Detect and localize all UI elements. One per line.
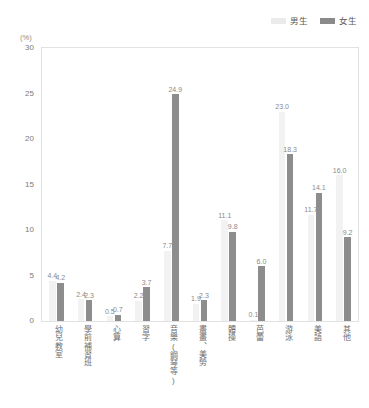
x-axis-label: 畫畫、美勞 <box>195 325 206 367</box>
bar-group: 11.714.1 <box>301 48 330 321</box>
bar-chart: 男生 女生 (%) 051015202530 4.44.22.42.30.50.… <box>0 0 369 408</box>
bar-girls: 0.7 <box>115 315 122 321</box>
x-axis-label: 學前補習班 <box>80 325 91 367</box>
y-axis-tick: 10 <box>25 226 34 234</box>
bar-boys: 0.5 <box>107 316 114 321</box>
x-axis-labels: 幼兒教室學前補習班心算習字音樂(鋼琴等)畫畫、美勞體操芭蕾游泳美語其他 <box>42 325 358 405</box>
legend-label-girls: 女生 <box>339 17 357 26</box>
bar-girls: 24.9 <box>172 94 179 321</box>
x-axis-label: 音樂(鋼琴等) <box>166 325 177 385</box>
legend-label-boys: 男生 <box>290 17 308 26</box>
bar-value-label: 2.2 <box>134 292 144 299</box>
bar-group: 7.724.9 <box>157 48 186 321</box>
y-axis: 051015202530 <box>0 47 39 322</box>
bars-layer: 4.44.22.42.30.50.72.23.77.724.91.92.311.… <box>42 48 358 321</box>
bar-value-label: 7.7 <box>162 242 172 249</box>
bar-value-label: 4.2 <box>55 274 65 281</box>
bar-group: 0.50.7 <box>99 48 128 321</box>
bar-group: 23.018.3 <box>272 48 301 321</box>
bar-girls: 6.0 <box>258 266 265 321</box>
bar-value-label: 18.3 <box>283 146 297 153</box>
y-axis-tick: 30 <box>25 44 34 52</box>
bar-girls: 9.2 <box>344 237 351 321</box>
bar-value-label: 0.7 <box>113 306 123 313</box>
bar-value-label: 23.0 <box>275 103 289 110</box>
y-axis-tick: 25 <box>25 90 34 98</box>
bar-group: 11.19.8 <box>214 48 243 321</box>
bar-boys: 7.7 <box>164 251 171 321</box>
legend-swatch-girls <box>320 18 335 24</box>
bar-boys: 11.1 <box>221 220 228 321</box>
bar-value-label: 0.1 <box>249 311 259 318</box>
x-axis-label: 幼兒教室 <box>51 325 62 358</box>
bar-group: 1.92.3 <box>186 48 215 321</box>
bar-boys: 0.1 <box>250 320 257 321</box>
y-axis-tick: 5 <box>30 272 34 280</box>
bar-value-label: 16.0 <box>333 167 347 174</box>
bar-value-label: 9.2 <box>343 229 353 236</box>
bar-girls: 9.8 <box>229 232 236 321</box>
bar-value-label: 24.9 <box>168 86 182 93</box>
x-axis-label: 美語 <box>309 325 320 342</box>
bar-boys: 1.9 <box>193 304 200 321</box>
x-axis-label: 游泳 <box>281 325 292 342</box>
bar-boys: 16.0 <box>336 175 343 321</box>
x-axis-label: 習字 <box>137 325 148 342</box>
bar-girls: 2.3 <box>86 300 93 321</box>
bar-value-label: 9.8 <box>228 223 238 230</box>
bar-girls: 3.7 <box>143 287 150 321</box>
bar-value-label: 6.0 <box>257 258 267 265</box>
bar-value-label: 2.3 <box>199 292 209 299</box>
legend-entry-boys: 男生 <box>271 17 308 26</box>
bar-girls: 4.2 <box>57 283 64 321</box>
x-axis-label: 體操 <box>223 325 234 342</box>
bar-group: 2.42.3 <box>71 48 100 321</box>
y-axis-tick: 15 <box>25 181 34 189</box>
x-axis-label: 芭蕾 <box>252 325 263 342</box>
bar-girls: 2.3 <box>201 300 208 321</box>
bar-boys: 2.2 <box>135 301 142 321</box>
bar-group: 2.23.7 <box>128 48 157 321</box>
bar-boys: 23.0 <box>279 112 286 321</box>
bar-group: 4.44.2 <box>42 48 71 321</box>
bar-value-label: 2.3 <box>84 292 94 299</box>
bar-boys: 4.4 <box>49 281 56 321</box>
bar-value-label: 3.7 <box>142 279 152 286</box>
bar-girls: 14.1 <box>316 193 323 321</box>
bar-group: 0.16.0 <box>243 48 272 321</box>
x-axis-label: 其他 <box>338 325 349 342</box>
bar-boys: 2.4 <box>78 299 85 321</box>
x-axis-label: 心算 <box>108 325 119 342</box>
bar-group: 16.09.2 <box>329 48 358 321</box>
bar-value-label: 14.1 <box>312 184 326 191</box>
chart-legend: 男生 女生 <box>271 17 357 26</box>
bar-value-label: 11.1 <box>218 212 231 219</box>
y-axis-unit-label: (%) <box>20 33 32 42</box>
y-axis-tick: 20 <box>25 135 34 143</box>
bar-boys: 11.7 <box>308 215 315 321</box>
bar-girls: 18.3 <box>287 154 294 321</box>
legend-entry-girls: 女生 <box>320 17 357 26</box>
y-axis-tick: 0 <box>30 317 34 325</box>
legend-swatch-boys <box>271 18 286 24</box>
